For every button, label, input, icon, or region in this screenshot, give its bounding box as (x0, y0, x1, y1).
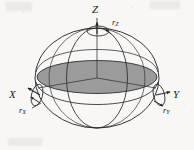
ellipsoid-figure: Z rZ X rX Y rY (0, 0, 194, 150)
ellipsoid-diagram-canvas (0, 0, 194, 150)
rotation-arrow-x (28, 88, 40, 95)
rotation-indicator-x (28, 83, 45, 108)
axis-label-x: X (9, 89, 16, 100)
radius-label-rz: rZ (112, 18, 119, 27)
rotation-indicator-y (151, 83, 170, 107)
axis-label-z: Z (92, 4, 98, 15)
rotation-arrow-y (156, 92, 170, 95)
rotation-pointer-x (31, 97, 40, 103)
rotation-loop-z (87, 26, 109, 36)
axis-label-y: Y (173, 89, 179, 100)
rotation-loop-x (29, 83, 45, 107)
rx-subscript: X (22, 109, 26, 115)
rz-subscript: Z (115, 21, 118, 27)
radius-label-ry: rY (163, 106, 170, 115)
radius-label-rx: rX (19, 106, 26, 115)
ry-subscript: Y (166, 109, 169, 115)
